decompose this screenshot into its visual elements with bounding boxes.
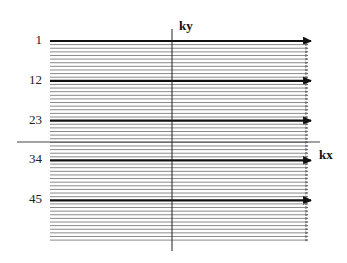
row-label: 34 [12,152,42,165]
row-label: 23 [12,113,42,126]
kx-axis-label: kx [319,148,333,161]
readout-lines [50,41,311,240]
row-label: 1 [12,33,42,46]
kspace-diagram [0,0,347,263]
row-label: 12 [12,73,42,86]
row-label: 45 [12,192,42,205]
ky-axis-label: ky [179,19,193,32]
